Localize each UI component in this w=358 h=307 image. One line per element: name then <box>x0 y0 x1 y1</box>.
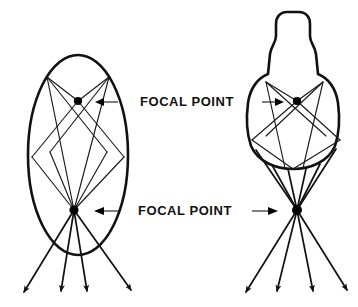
figure-background <box>0 0 358 307</box>
focal-point-diagram: FOCAL POINT FOCAL POINT <box>0 0 358 307</box>
left-lower-focal-dot <box>69 205 78 214</box>
diagram-canvas: FOCAL POINT FOCAL POINT <box>0 0 358 307</box>
right-upper-focal-dot <box>293 97 301 105</box>
right-lower-focal-dot <box>292 205 302 215</box>
upper-focal-point-label: FOCAL POINT <box>140 94 234 109</box>
left-upper-focal-dot <box>74 97 82 105</box>
lower-focal-point-label: FOCAL POINT <box>138 203 232 218</box>
